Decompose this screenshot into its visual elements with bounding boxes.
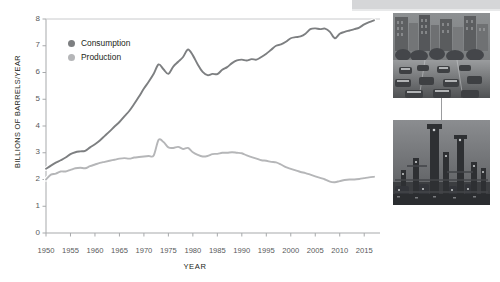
series-halo-consumption xyxy=(46,20,374,168)
photo-connector-line xyxy=(441,98,442,120)
chart-figure: BILLIONS OF BARRELS/YEAR YEAR 012345678 … xyxy=(0,0,500,282)
consumption-photo xyxy=(393,13,490,98)
production-photo xyxy=(393,120,490,205)
